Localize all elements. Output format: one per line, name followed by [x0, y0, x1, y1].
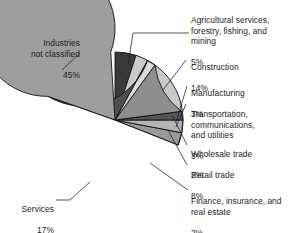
pie-chart-figure: Agricultural services, forestry, fishing… — [0, 0, 307, 233]
leader-line-finance — [150, 163, 188, 190]
callout-services[interactable]: Services 17% — [0, 194, 54, 233]
callout-percent-finance: 2% — [191, 228, 307, 233]
callout-label-retail-trade: Retail trade — [191, 170, 303, 180]
callout-label-services: Services — [0, 204, 54, 214]
callout-label-agricultural-services: Agricultural services, forestry, fishing… — [191, 15, 303, 46]
callout-label-industries-not-classified: Industries not classified — [0, 38, 80, 59]
callout-label-transportation: Transportation, communications, and util… — [191, 109, 303, 140]
callout-label-manufacturing: Manufacturing — [191, 88, 303, 98]
callout-label-construction: Construction — [191, 62, 303, 72]
callout-finance-insurance-real-estate[interactable]: Finance, insurance, and real estate 2% — [191, 186, 307, 233]
callout-percent-industries-not-classified: 45% — [0, 70, 80, 80]
callout-industries-not-classified[interactable]: Industries not classified 45% — [0, 28, 80, 90]
callout-percent-services: 17% — [0, 225, 54, 233]
callout-label-wholesale-trade: Wholesale trade — [191, 149, 303, 159]
leader-line-services — [56, 182, 90, 200]
callout-label-finance: Finance, insurance, and real estate — [191, 196, 307, 217]
